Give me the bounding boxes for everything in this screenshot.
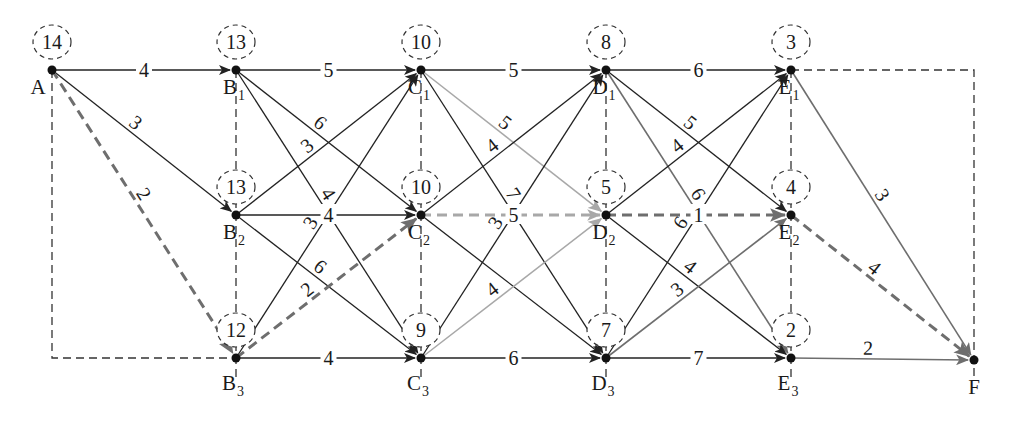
weight-label-a-b1: 4 [136,59,152,81]
node-label: B3 [222,371,244,399]
node-value: 2 [786,319,796,341]
node-label: B2 [223,220,245,248]
node-value: 4 [786,176,796,198]
weight-label-c3-d3: 6 [506,347,522,369]
node-dot [232,211,241,220]
node-b2: 13B2 [217,170,255,248]
node-b3: 12B3 [217,313,255,399]
node-c2: 10C2 [402,170,440,248]
node-dot [417,354,426,363]
node-label: D2 [592,220,615,248]
node-label: D3 [591,371,614,399]
node-dot [602,211,611,220]
node-value: 12 [226,319,246,341]
node-label: F [968,375,980,399]
weight-label-a-b3: 2 [132,184,156,204]
node-value: 14 [42,31,62,53]
node-value: 9 [416,319,426,341]
weight-label-d2-e2: 1 [691,204,707,226]
svg-text:2: 2 [132,184,156,204]
node-value: 13 [226,176,246,198]
weight-label-b1-c1: 5 [321,59,337,81]
node-dot [602,66,611,75]
node-d2: 5D2 [587,170,625,248]
svg-text:5: 5 [509,204,519,226]
node-label: E3 [778,371,799,399]
weight-label-d3-e3: 7 [691,347,707,369]
node-dot [602,354,611,363]
node-c3: 9C3 [402,313,440,399]
svg-text:6: 6 [694,59,704,81]
frame-right [791,70,974,378]
weight-label-b3-c3: 4 [321,347,337,369]
edge-d3-e2 [606,219,786,358]
weight-label-c2-d2: 5 [506,204,522,226]
node-dot [970,356,979,365]
node-value: 13 [226,31,246,53]
edge-e1-f [791,70,971,355]
nodes-layer: 14A13B113B212B310C110C29C38D15D27D33E14E… [30,25,979,399]
node-dot [232,66,241,75]
svg-text:4: 4 [324,204,334,226]
svg-text:4: 4 [139,59,149,81]
svg-text:6: 6 [509,347,519,369]
edge-b2-c3 [236,215,416,354]
node-dot [417,66,426,75]
edge-b3-c2 [236,219,416,358]
node-e3: 2E3 [772,313,810,399]
node-d3: 7D3 [587,313,625,399]
weight-label-b2-c2: 4 [321,204,337,226]
weight-label-e1-f: 3 [871,185,895,205]
node-dot [48,66,57,75]
svg-text:7: 7 [694,347,704,369]
svg-text:1: 1 [694,204,704,226]
node-value: 7 [601,319,611,341]
node-label: C3 [407,371,429,399]
node-dot [787,211,796,220]
edge-c2-d3 [421,215,601,354]
node-label: E2 [779,220,800,248]
node-label: A [30,75,46,99]
edge-c3-d2 [421,219,601,358]
weight-label-c1-d1: 5 [506,59,522,81]
node-value: 8 [601,31,611,53]
node-e2: 4E2 [772,170,810,248]
node-dot [232,354,241,363]
shortest-path-network-diagram: 43256434632455745346656414637342 14A13B1… [0,0,1015,430]
node-dot [787,354,796,363]
svg-text:4: 4 [324,347,334,369]
weight-label-e3-f: 2 [863,337,873,359]
edge-e2-f [791,215,969,356]
edge-e3-f [791,358,968,360]
node-f: F [968,356,980,400]
svg-text:5: 5 [324,59,334,81]
node-value: 3 [786,31,796,53]
svg-text:2: 2 [863,337,873,359]
weight-label-d1-e1: 6 [691,59,707,81]
node-value: 10 [411,31,431,53]
svg-text:3: 3 [871,185,895,205]
node-value: 10 [411,176,431,198]
svg-text:5: 5 [509,59,519,81]
node-value: 5 [601,176,611,198]
node-dot [787,66,796,75]
edge-d2-e3 [606,215,786,354]
node-dot [417,211,426,220]
node-label: C2 [408,220,430,248]
